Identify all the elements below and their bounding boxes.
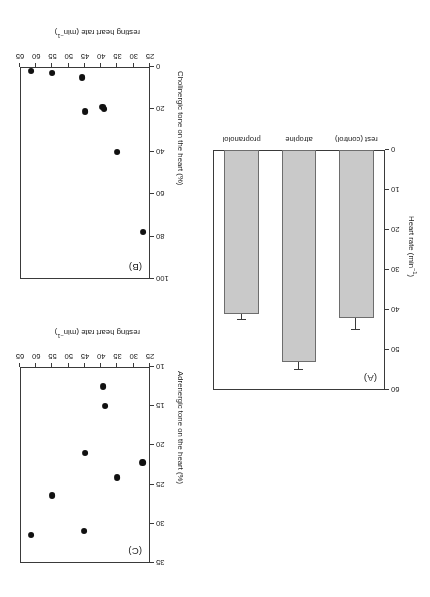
panel-c-x-tick-label: 25: [146, 352, 154, 361]
panel-b-x-tick-label: 35: [113, 52, 121, 61]
bar-category-label: propranolol: [223, 135, 261, 144]
panel-b-data-point: [140, 229, 146, 235]
panel-c-data-point: [100, 384, 106, 390]
panel-a-y-tick-label: 40: [391, 306, 415, 315]
panel-c-y-tick-label: 35: [156, 559, 180, 568]
panel-c-label: (C): [128, 546, 142, 557]
panel-c-data-point: [139, 460, 145, 466]
panel-b-y-tick: [150, 278, 154, 279]
panel-b-x-tick-label: 30: [130, 52, 138, 61]
panel-b-x-tick-label: 25: [146, 52, 154, 61]
panel-a-y-tick: [385, 389, 389, 390]
panel-b-y-tick-label: 80: [156, 232, 180, 241]
panel-c-data-point: [114, 474, 120, 480]
panel-b-data-point: [79, 75, 85, 81]
bar-category-label: rest (control): [335, 135, 378, 144]
panel-b-data-point: [114, 149, 120, 155]
panel-c-x-axis-title-superscript: −1: [57, 333, 63, 339]
panel-b-y-tick-label: 100: [156, 275, 180, 284]
panel-b-x-tick: [68, 63, 69, 67]
panel-b-x-axis-title-superscript: −1: [57, 33, 63, 39]
panel-b-x-axis-title: resting heart rate (min−1): [55, 28, 140, 39]
panel-c-x-tick-label: 50: [65, 352, 73, 361]
panel-a-y-axis-title-tail: ): [407, 274, 416, 277]
panel-c-data-point: [28, 532, 34, 538]
panel-a: (A) 0102030405060 rest (control)atropine…: [200, 112, 430, 412]
bar-category-label: atropine: [285, 135, 312, 144]
panel-b-x-tick: [117, 63, 118, 67]
panel-a-y-tick-label: 50: [391, 346, 415, 355]
bar: [282, 150, 316, 362]
panel-a-y-tick: [385, 229, 389, 230]
panel-a-y-tick-label: 60: [391, 386, 415, 395]
panel-c-x-tick-label: 35: [113, 352, 121, 361]
panel-b: (B) 253035404550556065020406080100 Choli…: [0, 7, 202, 297]
panel-a-y-axis-title: Heart rate (min−1): [407, 216, 418, 277]
panel-c-x-tick: [19, 363, 20, 367]
panel-c-x-tick-label: 55: [48, 352, 56, 361]
panel-b-y-tick: [150, 108, 154, 109]
panel-b-data-point: [82, 108, 88, 114]
panel-c-y-tick: [150, 484, 154, 485]
figure-canvas-rotated-180: (A) 0102030405060 rest (control)atropine…: [0, 0, 430, 597]
panel-b-x-tick-label: 60: [32, 52, 40, 61]
panel-c-y-tick: [150, 523, 154, 524]
panel-b-y-tick: [150, 151, 154, 152]
panel-b-y-tick: [150, 66, 154, 67]
panel-b-x-axis-title-tail: ): [55, 28, 58, 37]
panel-c-x-axis-title-text: resting heart rate (min: [64, 328, 140, 337]
panel-c-x-axis-title-tail: ): [55, 328, 58, 337]
panel-c-x-tick: [84, 363, 85, 367]
panel-b-data-point: [99, 104, 105, 110]
panel-a-y-tick: [385, 349, 389, 350]
panel-a-y-tick-label: 0: [391, 146, 415, 155]
panel-c-x-tick-label: 60: [32, 352, 40, 361]
panel-c-y-tick: [150, 405, 154, 406]
panel-b-x-tick-label: 45: [81, 52, 89, 61]
panel-a-y-tick-label: 10: [391, 186, 415, 195]
panel-c-data-point: [49, 492, 55, 498]
panel-a-y-tick: [385, 309, 389, 310]
panel-b-y-axis-title-text: Cholinergic tone on the heart (%): [176, 71, 185, 185]
bar: [339, 150, 373, 318]
panel-c-data-point: [81, 528, 87, 534]
panel-c-y-tick-label: 30: [156, 519, 180, 528]
panel-c-x-tick: [100, 363, 101, 367]
panel-b-label: (B): [129, 262, 142, 273]
panel-b-x-tick: [35, 63, 36, 67]
panel-a-y-tick: [385, 149, 389, 150]
panel-b-x-axis-title-text: resting heart rate (min: [64, 28, 140, 37]
figure-page: (A) 0102030405060 rest (control)atropine…: [0, 0, 430, 597]
panel-c-y-tick: [150, 562, 154, 563]
panel-b-y-axis-title: Cholinergic tone on the heart (%): [176, 71, 185, 185]
panel-a-y-axis-title-text: Heart rate (min: [407, 216, 416, 268]
panel-c-x-tick: [35, 363, 36, 367]
panel-a-y-tick: [385, 189, 389, 190]
panel-c-y-axis-title-text: Adrenergic tone on the heart (%): [176, 371, 185, 484]
panel-b-x-tick: [100, 63, 101, 67]
panel-c-y-tick: [150, 366, 154, 367]
panel-a-y-tick: [385, 269, 389, 270]
panel-c-x-tick-label: 40: [97, 352, 105, 361]
panel-c-x-tick-label: 30: [130, 352, 138, 361]
panel-c-x-tick-label: 65: [16, 352, 24, 361]
panel-c-x-tick: [117, 363, 118, 367]
panel-b-x-tick: [133, 63, 134, 67]
panel-a-label: (A): [364, 373, 377, 384]
panel-c-x-tick: [52, 363, 53, 367]
panel-c-x-tick-label: 45: [81, 352, 89, 361]
panel-b-x-tick: [52, 63, 53, 67]
panel-c-data-point: [102, 403, 108, 409]
panel-b-plot-frame: [20, 67, 150, 279]
panel-c-y-tick: [150, 444, 154, 445]
panel-b-y-tick: [150, 236, 154, 237]
panel-c-data-point: [82, 450, 88, 456]
panel-b-x-tick-label: 50: [65, 52, 73, 61]
panel-b-x-tick: [19, 63, 20, 67]
panel-b-x-tick-label: 65: [16, 52, 24, 61]
panel-b-y-tick: [150, 193, 154, 194]
panel-c-x-tick: [68, 363, 69, 367]
error-bar-cap: [237, 319, 246, 320]
error-bar-cap: [294, 369, 303, 370]
panel-b-x-tick-label: 40: [97, 52, 105, 61]
